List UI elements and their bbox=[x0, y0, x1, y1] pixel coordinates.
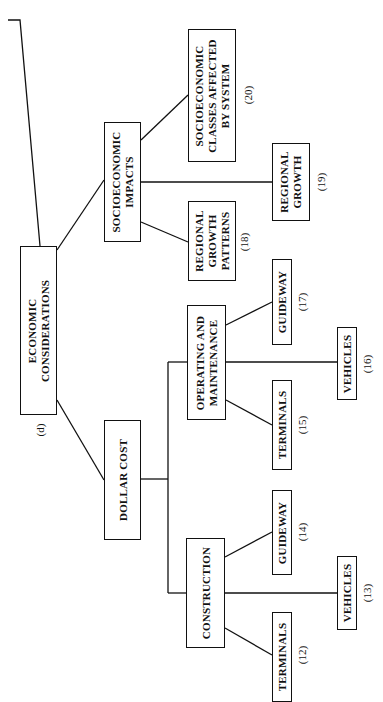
node-number-17: (17) bbox=[296, 293, 308, 311]
node-number-12: (12) bbox=[296, 646, 308, 664]
vehicles-16-label: VEHICLES bbox=[341, 334, 354, 392]
economic-considerations-label: ECONOMIC CONSIDERATIONS bbox=[26, 279, 52, 381]
dollar-cost-box: DOLLAR COST bbox=[104, 420, 141, 540]
regional-growth-patterns-box: REGIONAL GROWTH PATTERNS bbox=[188, 201, 236, 281]
socioeconomic-impacts-label: SOCIOECONOMIC IMPACTS bbox=[110, 132, 136, 233]
regional-growth-label: REGIONAL GROWTH bbox=[278, 151, 304, 213]
node-number-13: (13) bbox=[361, 584, 373, 602]
vehicles-13-label: VEHICLES bbox=[341, 564, 354, 622]
terminals-15-label: TERMINALS bbox=[276, 391, 289, 459]
node-number-16: (16) bbox=[361, 355, 373, 373]
regional-growth-patterns-label: REGIONAL GROWTH PATTERNS bbox=[193, 210, 232, 272]
terminals-12-box: TERMINALS bbox=[272, 612, 292, 702]
guideway-14-label: GUIDEWAY bbox=[276, 501, 289, 563]
node-number-19: (19) bbox=[315, 173, 327, 191]
socioeconomic-impacts-box: SOCIOECONOMIC IMPACTS bbox=[104, 122, 141, 242]
regional-growth-box: REGIONAL GROWTH bbox=[272, 143, 310, 221]
node-number-20: (20) bbox=[242, 86, 254, 104]
vehicles-16-box: VEHICLES bbox=[337, 327, 357, 400]
socioeconomic-classes-box: SOCIOECONOMIC CLASSES AFFECTED BY SYSTEM bbox=[188, 29, 236, 162]
guideway-14-box: GUIDEWAY bbox=[272, 490, 292, 575]
terminals-15-box: TERMINALS bbox=[272, 380, 292, 470]
node-number-15: (15) bbox=[296, 416, 308, 434]
socioeconomic-classes-label: SOCIOECONOMIC CLASSES AFFECTED BY SYSTEM bbox=[193, 39, 232, 153]
operating-maintenance-label: OPERATING AND MAINTENANCE bbox=[194, 315, 220, 409]
vehicles-13-box: VEHICLES bbox=[337, 556, 357, 630]
operating-maintenance-box: OPERATING AND MAINTENANCE bbox=[187, 305, 226, 420]
terminals-12-label: TERMINALS bbox=[276, 623, 289, 691]
construction-label: CONSTRUCTION bbox=[199, 547, 212, 639]
guideway-17-box: GUIDEWAY bbox=[272, 259, 292, 345]
node-number-18: (18) bbox=[238, 233, 250, 251]
dollar-cost-label: DOLLAR COST bbox=[116, 439, 129, 521]
guideway-17-label: GUIDEWAY bbox=[276, 271, 289, 333]
economic-considerations-box: ECONOMIC CONSIDERATIONS bbox=[20, 246, 57, 415]
diagram-label-d: (d) bbox=[34, 424, 46, 437]
node-number-14: (14) bbox=[296, 523, 308, 541]
construction-box: CONSTRUCTION bbox=[186, 538, 225, 648]
